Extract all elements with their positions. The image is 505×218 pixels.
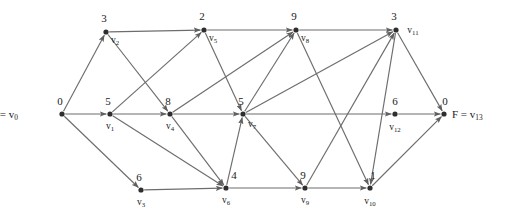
node-dot-v3 [138, 187, 143, 192]
node-dot-v0 [59, 111, 64, 116]
node-label-v10: v10 [364, 196, 376, 207]
edge-v8-to-v10 [297, 33, 368, 185]
edge-v0-to-v2 [64, 35, 105, 111]
node-weight-v2: 3 [101, 12, 107, 24]
node-dot-v9 [302, 185, 307, 190]
node-dot-v6 [223, 185, 228, 190]
node-v2[interactable]: 3v2 [101, 12, 119, 46]
node-label-v7: v7 [248, 119, 257, 130]
node-weight-v7: 5 [238, 95, 244, 107]
edge-v4-to-v8 [173, 32, 293, 112]
node-weight-v13: 0 [442, 95, 448, 107]
node-dot-v2 [103, 29, 108, 34]
node-weight-v10: 1 [370, 169, 376, 181]
edge-v10-to-v13 [372, 117, 441, 186]
edge-v1-to-v5 [112, 32, 201, 111]
edges-layer [64, 30, 443, 190]
node-weight-v4: 8 [165, 95, 171, 107]
node-v4[interactable]: 8v4 [165, 95, 174, 132]
graph-figure: 05v13v26v38v42v54v65v79v89v91v103v116v12… [0, 0, 505, 218]
source-terminal-label: S = v0 [0, 108, 18, 122]
node-v9[interactable]: 9v9 [300, 169, 309, 206]
node-dot-v5 [201, 27, 206, 32]
node-dot-v7 [240, 111, 245, 116]
edge-v3-to-v6 [144, 188, 222, 190]
graph-canvas: 05v13v26v38v42v54v65v79v89v91v103v116v12… [0, 0, 505, 218]
node-weight-v12: 6 [392, 95, 398, 107]
node-label-v11: v11 [407, 25, 418, 36]
node-weight-v8: 9 [291, 10, 297, 22]
edge-v5-to-v7 [205, 33, 241, 111]
node-weight-v0: 0 [57, 95, 63, 107]
node-weight-v1: 5 [105, 95, 111, 107]
node-label-v9: v9 [301, 195, 310, 206]
edge-v9-to-v11 [307, 33, 395, 185]
edge-v2-to-v4 [108, 35, 168, 112]
node-weight-v11: 3 [391, 10, 397, 22]
node-label-v12: v12 [389, 122, 401, 133]
node-dot-v8 [293, 27, 298, 32]
node-v11[interactable]: 3v11 [391, 10, 418, 36]
edge-v2-to-v5 [109, 30, 200, 32]
node-weight-v5: 2 [199, 10, 205, 22]
node-label-v5: v5 [209, 33, 218, 44]
node-label-v8: v8 [301, 33, 310, 44]
node-v0[interactable]: 0 [57, 95, 64, 117]
node-v5[interactable]: 2v5 [199, 10, 217, 44]
node-label-v2: v2 [111, 35, 120, 46]
node-weight-v3: 6 [136, 171, 142, 183]
edge-v7-to-v11 [246, 32, 393, 113]
node-dot-v11 [393, 27, 398, 32]
sink-terminal-label: F = v13 [452, 108, 483, 122]
edge-v4-to-v6 [172, 117, 224, 186]
node-v3[interactable]: 6v3 [136, 171, 145, 208]
node-dot-v13 [441, 111, 446, 116]
node-weight-v6: 4 [231, 169, 237, 181]
node-v1[interactable]: 5v1 [105, 95, 114, 132]
edge-v11-to-v10 [371, 33, 396, 184]
edge-v11-to-v13 [398, 33, 443, 111]
node-weight-v9: 9 [300, 169, 306, 181]
node-v8[interactable]: 9v8 [291, 10, 309, 44]
node-label-v3: v3 [137, 197, 146, 208]
node-label-v4: v4 [166, 121, 175, 132]
node-v13[interactable]: 0 [441, 95, 448, 117]
node-dot-v4 [167, 111, 172, 116]
node-dot-v10 [367, 185, 372, 190]
node-label-v6: v6 [222, 195, 231, 206]
node-dot-v1 [107, 111, 112, 116]
node-dot-v12 [392, 111, 397, 116]
node-label-v1: v1 [106, 121, 114, 132]
edge-v0-to-v3 [64, 116, 138, 187]
